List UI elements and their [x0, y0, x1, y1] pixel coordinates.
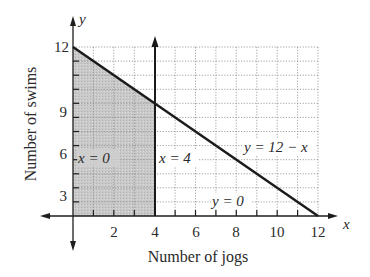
- y-axis-title: Number of swims: [22, 67, 39, 182]
- annotation-y-equals-0: y = 0: [210, 193, 244, 209]
- annotation-x-equals-0: x = 0: [77, 150, 110, 166]
- x-tick-label: 10: [270, 224, 285, 240]
- x-axis-variable: x: [342, 216, 350, 232]
- x-tick-label: 4: [151, 224, 159, 240]
- x-tick-labels: 2 4 6 8 10 12: [110, 224, 325, 240]
- y-tick-label: 6: [60, 146, 68, 162]
- y-tick-label: 3: [60, 188, 68, 204]
- y-tick-labels: 3 6 9 12: [54, 39, 69, 204]
- chart: 2 4 6 8 10 12 3 6 9 12 y x Number of jog…: [0, 0, 370, 277]
- x-tick-label: 8: [232, 224, 240, 240]
- x-tick-label: 12: [311, 224, 326, 240]
- annotation-y-equals-12-minus-x: y = 12 − x: [242, 139, 308, 155]
- x-axis-title: Number of jogs: [148, 248, 248, 266]
- x-tick-label: 6: [192, 224, 200, 240]
- x-tick-label: 2: [110, 224, 118, 240]
- y-axis-variable: y: [77, 11, 86, 27]
- annotation-x-equals-4: x = 4: [158, 150, 191, 166]
- y-tick-label: 12: [54, 39, 69, 55]
- y-tick-label: 9: [60, 104, 68, 120]
